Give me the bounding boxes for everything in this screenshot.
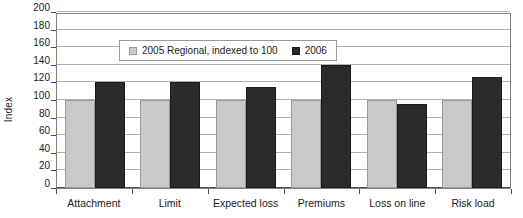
- bar-group: [359, 14, 435, 188]
- bar: [170, 82, 200, 188]
- bar: [321, 65, 351, 188]
- chart-legend: 2005 Regional, indexed to 100 2006: [119, 40, 337, 61]
- bar-group: [435, 14, 511, 188]
- plot-area: 2005 Regional, indexed to 100 2006: [56, 13, 511, 189]
- bar: [95, 82, 125, 188]
- x-axis-tick-labels: AttachmentLimitExpected lossPremiumsLoss…: [56, 193, 511, 215]
- y-axis-title-text: Index: [4, 96, 15, 121]
- legend-label-2005: 2005 Regional, indexed to 100: [142, 45, 278, 56]
- y-tick-label-180: 180: [14, 21, 50, 31]
- y-tick-label-200: 200: [14, 3, 50, 13]
- bar: [397, 104, 427, 188]
- x-tick-label: Premiums: [283, 193, 359, 215]
- y-axis-tick-labels: 020406080100120140160180200: [14, 13, 56, 189]
- bar: [367, 100, 397, 188]
- y-tick-label-40: 40: [14, 144, 50, 154]
- category-tick: [511, 189, 512, 194]
- legend-swatch-icon-2005: [129, 47, 137, 55]
- y-tick-label-160: 160: [14, 38, 50, 48]
- x-tick-label: Attachment: [56, 193, 132, 215]
- bar: [216, 100, 246, 188]
- bar-chart: Index 020406080100120140160180200 2005 R…: [0, 0, 523, 218]
- x-tick-label: Loss on line: [359, 193, 435, 215]
- legend-swatch-icon-2006: [292, 47, 300, 55]
- legend-entry-2005: 2005 Regional, indexed to 100: [129, 45, 278, 56]
- x-tick-label: Risk load: [435, 193, 511, 215]
- y-tick-label-0: 0: [14, 179, 50, 189]
- y-tick-label-20: 20: [14, 161, 50, 171]
- bar: [65, 100, 95, 188]
- legend-entry-2006: 2006: [292, 45, 327, 56]
- y-tick-label-120: 120: [14, 73, 50, 83]
- y-tick-label-140: 140: [14, 56, 50, 66]
- bar: [472, 77, 502, 188]
- bar: [246, 87, 276, 188]
- bar: [140, 100, 170, 188]
- bar: [291, 100, 321, 188]
- bar: [442, 100, 472, 188]
- x-tick-label: Limit: [132, 193, 208, 215]
- legend-label-2006: 2006: [305, 45, 327, 56]
- y-tick-label-80: 80: [14, 109, 50, 119]
- x-tick-label: Expected loss: [208, 193, 284, 215]
- gridline-200: [57, 11, 510, 12]
- y-tick-label-60: 60: [14, 126, 50, 136]
- y-tick-label-100: 100: [14, 91, 50, 101]
